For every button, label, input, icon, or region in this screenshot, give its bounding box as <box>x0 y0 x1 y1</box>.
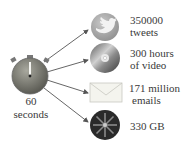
hard-disk-icon <box>90 110 120 140</box>
storage-value: 330 GB <box>130 120 165 132</box>
video-disc-icon <box>90 43 120 73</box>
video-unit: of video <box>130 59 174 71</box>
video-label: 300 hours of video <box>130 47 174 71</box>
center-label-line2: seconds <box>10 108 52 121</box>
stopwatch-icon <box>10 55 49 94</box>
emails-unit: emails <box>129 94 180 106</box>
tweets-unit: tweets <box>130 26 163 38</box>
center-label-line1: 60 <box>10 95 52 108</box>
tweets-label: 350000 tweets <box>130 14 163 38</box>
emails-label: 171 million emails <box>129 82 180 106</box>
diagram-canvas: 60 seconds 350000 tweets 300 hours of vi… <box>0 0 185 150</box>
center-label: 60 seconds <box>10 95 52 121</box>
storage-label: 330 GB <box>130 120 165 132</box>
twitter-bird-icon <box>91 13 119 41</box>
tweets-value: 350000 <box>130 14 163 26</box>
envelope-icon <box>90 83 122 102</box>
emails-value: 171 million <box>129 82 180 94</box>
video-value: 300 hours <box>130 47 174 59</box>
